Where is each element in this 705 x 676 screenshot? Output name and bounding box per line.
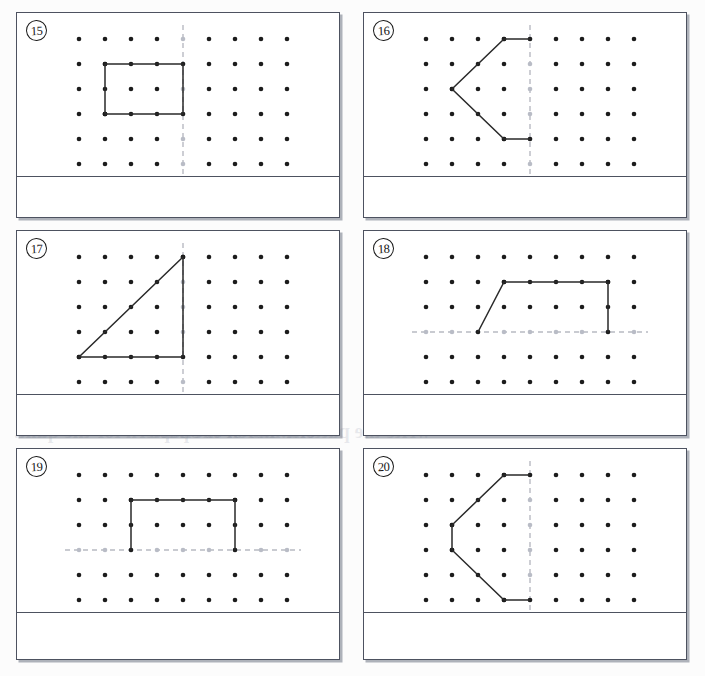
grid-dot <box>554 112 559 117</box>
grid-dot <box>606 37 611 42</box>
grid-dot <box>129 162 134 167</box>
grid-dot <box>285 305 290 310</box>
grid-dot <box>207 162 212 167</box>
grid-dot <box>77 498 82 503</box>
grid-dot <box>502 330 507 335</box>
grid-dot <box>502 548 507 553</box>
grid-dot <box>528 573 533 578</box>
answer-writing-area[interactable] <box>17 395 339 435</box>
grid-dot <box>580 473 585 478</box>
grid-dot <box>450 598 455 603</box>
grid-dot <box>502 573 507 578</box>
grid-dot <box>77 573 82 578</box>
grid-dot <box>476 473 481 478</box>
grid-dot <box>424 548 429 553</box>
grid-dot <box>259 523 264 528</box>
grid-dot <box>606 523 611 528</box>
grid-dot <box>450 255 455 260</box>
grid-dot <box>259 162 264 167</box>
grid-dot <box>77 62 82 67</box>
grid-dot <box>77 37 82 42</box>
grid-dot <box>606 380 611 385</box>
grid-dot <box>129 280 134 285</box>
grid-dot <box>207 137 212 142</box>
grid-dot <box>259 87 264 92</box>
grid-dot <box>580 548 585 553</box>
answer-writing-area[interactable] <box>364 177 686 217</box>
grid-dot <box>502 162 507 167</box>
grid-dot <box>259 473 264 478</box>
grid-dot <box>207 112 212 117</box>
grid-dot <box>259 137 264 142</box>
grid-dot <box>632 523 637 528</box>
grid-dot <box>155 305 160 310</box>
grid-dot <box>259 37 264 42</box>
geoboard-dot-grid <box>364 449 688 612</box>
grid-dot <box>103 548 108 553</box>
grid-dot <box>554 355 559 360</box>
grid-dot <box>554 255 559 260</box>
answer-writing-area[interactable] <box>17 613 339 659</box>
geoboard-dot-grid <box>364 13 688 176</box>
grid-dot <box>155 473 160 478</box>
grid-dot <box>285 473 290 478</box>
problem-panel-19: 19 <box>16 448 340 660</box>
grid-dot <box>424 37 429 42</box>
grid-dot <box>580 62 585 67</box>
grid-dot <box>554 305 559 310</box>
grid-dot <box>528 162 533 167</box>
grid-dot <box>606 355 611 360</box>
grid-dot <box>632 330 637 335</box>
grid-dot <box>580 162 585 167</box>
grid-dot <box>77 473 82 478</box>
answer-writing-area[interactable] <box>364 395 686 435</box>
answer-writing-area[interactable] <box>17 177 339 217</box>
problem-panel-16: 16 <box>363 12 687 218</box>
grid-dot <box>285 498 290 503</box>
grid-dot <box>632 112 637 117</box>
grid-dot <box>554 162 559 167</box>
grid-dot <box>233 87 238 92</box>
grid-dot <box>502 87 507 92</box>
grid-dot <box>103 305 108 310</box>
grid-dot <box>502 355 507 360</box>
grid-dot <box>285 37 290 42</box>
grid-dot <box>476 280 481 285</box>
grid-dot <box>450 305 455 310</box>
grid-dot <box>155 573 160 578</box>
grid-dot <box>77 598 82 603</box>
grid-dot <box>528 255 533 260</box>
geoboard-dot-grid <box>17 13 341 176</box>
grid-dot <box>632 255 637 260</box>
grid-dot <box>259 305 264 310</box>
grid-dot <box>259 498 264 503</box>
grid-dot <box>207 523 212 528</box>
grid-dot <box>129 37 134 42</box>
grid-dot <box>606 255 611 260</box>
grid-dot <box>502 380 507 385</box>
grid-dot <box>285 330 290 335</box>
grid-dot <box>181 473 186 478</box>
grid-dot <box>632 548 637 553</box>
grid-dot <box>476 598 481 603</box>
grid-dot <box>502 112 507 117</box>
grid-dot <box>233 355 238 360</box>
grid-dot <box>129 87 134 92</box>
grid-dot <box>580 137 585 142</box>
grid-dot <box>181 37 186 42</box>
grid-dot <box>77 280 82 285</box>
grid-dot <box>502 62 507 67</box>
grid-dot <box>155 598 160 603</box>
grid-dot <box>476 255 481 260</box>
grid-dot <box>606 548 611 553</box>
grid-dot <box>424 87 429 92</box>
grid-dot <box>181 548 186 553</box>
grid-dot <box>554 598 559 603</box>
grid-dot <box>502 498 507 503</box>
grid-dot <box>424 355 429 360</box>
grid-dot <box>476 37 481 42</box>
grid-dot <box>77 162 82 167</box>
grid-dot <box>606 137 611 142</box>
answer-writing-area[interactable] <box>364 613 686 659</box>
grid-dot <box>77 380 82 385</box>
